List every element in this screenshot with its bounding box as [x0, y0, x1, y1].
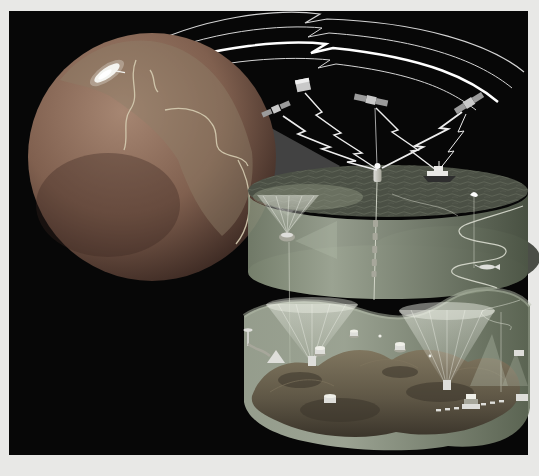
figure-canvas [0, 0, 539, 476]
ship-deck [427, 171, 448, 176]
ocean-observatory-diagram [0, 0, 539, 476]
sonar-base [308, 356, 316, 366]
small-sensor [378, 334, 381, 337]
insonified-patch [266, 297, 358, 313]
edge-instrument [516, 394, 528, 401]
insonified-patch [399, 302, 495, 320]
small-sensor [429, 355, 432, 358]
surface-mooring-buoy [374, 163, 382, 182]
node-instrument [349, 329, 359, 338]
node-instrument [314, 346, 326, 356]
sonar-base [443, 380, 451, 390]
globe-ocean-shade [36, 153, 180, 257]
node-instrument [394, 342, 406, 352]
junction-box [324, 394, 336, 403]
buoy-body [374, 169, 382, 182]
earth-globe [28, 33, 276, 281]
subsurface-float-top [281, 232, 293, 237]
edge-instrument [514, 350, 524, 356]
mast-top [244, 328, 253, 332]
